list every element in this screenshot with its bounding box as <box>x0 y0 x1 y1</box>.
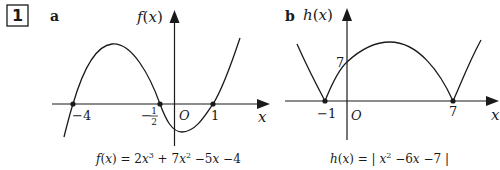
x-label-b: x <box>491 106 500 124</box>
chart-b: b h(x) x −1 O 7 7 h(x) = | x2 −6x −7 | <box>285 6 500 166</box>
origin-label-b: O <box>351 108 362 123</box>
y-intercept-label-b: 7 <box>336 55 344 70</box>
y-label-a: f(x) <box>136 8 163 26</box>
root-point-a3 <box>210 101 215 106</box>
root-label-a2-num: 1 <box>151 106 157 116</box>
svg-text:1: 1 <box>12 6 23 25</box>
question-number: 1 <box>7 5 28 26</box>
root-point-b2 <box>450 98 455 103</box>
origin-label-a: O <box>179 108 190 123</box>
y-axis-arrow-a <box>170 10 180 23</box>
root-label-b2: 7 <box>449 104 457 119</box>
part-label-a: a <box>50 8 59 24</box>
curve-h <box>297 40 481 101</box>
root-point-a2 <box>157 101 162 106</box>
y-axis-arrow-b <box>342 8 352 21</box>
root-label-a3: 1 <box>211 108 219 123</box>
equation-a: f(x) = 2x3 + 7x2 −5x −4 <box>95 151 241 166</box>
equation-b: h(x) = | x2 −6x −7 | <box>330 151 449 166</box>
root-label-a1: −4 <box>72 108 91 123</box>
chart-a: a f(x) x −4 − 1 2 O 1 f(x) = 2x3 + 7x2 −… <box>50 8 270 166</box>
root-label-b1: −1 <box>317 106 336 121</box>
x-axis-arrow-b <box>486 96 499 106</box>
part-label-b: b <box>285 8 295 24</box>
x-label-a: x <box>258 108 267 126</box>
root-point-b1 <box>322 98 327 103</box>
figure: 1 a f(x) x −4 − 1 2 O 1 f(x) = 2x3 + 7x2… <box>0 0 500 170</box>
y-label-b: h(x) <box>303 6 333 24</box>
root-point-a1 <box>70 101 75 106</box>
root-label-a2-den: 2 <box>151 117 157 127</box>
